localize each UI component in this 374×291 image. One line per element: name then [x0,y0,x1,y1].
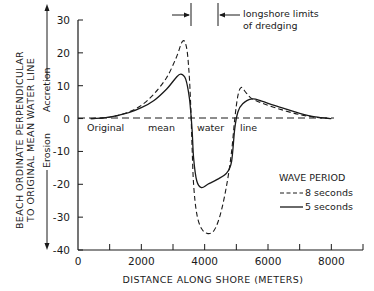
baseline-label: Originalmeanwaterline [87,122,257,133]
y-axis-title-line1: BEACH ORDINATE PERPENDICULAR [14,51,25,229]
baseline-label-word: Original [87,122,124,133]
x-tick-label: 2000 [128,255,155,267]
y-tick-label: -30 [53,211,70,223]
arrow-down-icon [45,243,50,250]
legend-label-8s: 8 seconds [305,187,353,198]
x-ticks: 02000400060008000 [75,244,363,267]
x-tick-label: 0 [75,255,82,267]
x-axis-title: DISTANCE ALONG SHORE (METERS) [123,274,304,285]
y-tick-label: -20 [53,178,70,190]
y-axis-title-line2: TO ORIGINAL MEAN WATER LINE [25,58,36,223]
arrow-up-icon [45,4,50,11]
dredging-annotation-line1: longshore limits [243,8,319,19]
y-tick-label: 0 [63,113,70,125]
y-tick-label: -10 [53,145,70,157]
accretion-label: Accretion [41,67,52,112]
legend-label-5s: 5 seconds [305,201,353,212]
x-tick-label: 6000 [255,255,282,267]
x-tick-label: 4000 [191,255,218,267]
y-tick-label: 20 [57,47,70,59]
y-tick-label: 10 [57,80,70,92]
baseline-label-word: line [240,122,257,133]
erosion-label: Erosion [41,133,52,168]
arrowhead-left-icon [219,13,225,18]
baseline-label-word: water [197,122,224,133]
dredging-annotation-line2: of dredging [243,20,298,31]
dredging-limits: longshore limits of dredging [172,3,319,31]
arrowhead-right-icon [184,13,190,18]
x-tick-label: 8000 [318,255,345,267]
baseline-label-word: mean [148,122,175,133]
y-tick-label: 30 [57,14,70,26]
series-lines [91,41,332,234]
series-8-seconds [91,41,332,234]
legend: WAVE PERIOD 8 seconds 5 seconds [279,172,353,212]
chart: 3020100-10-20-30-40 02000400060008000 Or… [0,0,374,291]
y-tick-label: -40 [53,244,70,256]
y-axis-title: BEACH ORDINATE PERPENDICULAR TO ORIGINAL… [14,4,52,250]
legend-title: WAVE PERIOD [279,172,345,183]
axes: 3020100-10-20-30-40 02000400060008000 [53,14,363,267]
